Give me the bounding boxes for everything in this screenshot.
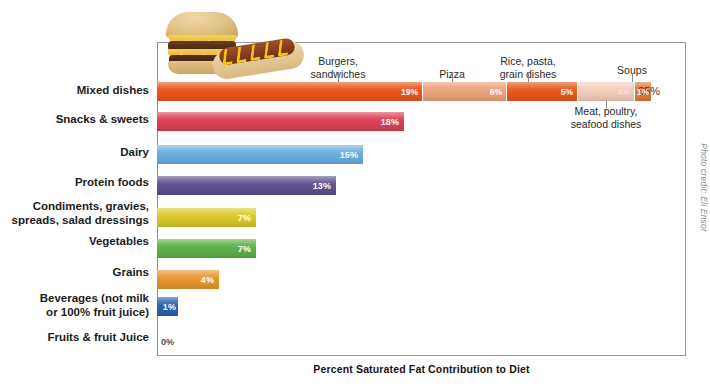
category-label-protein-foods: Protein foods [0, 176, 149, 190]
leader-line-meat-poultry [606, 101, 607, 108]
bar-value-snacks-sweets: 18% [381, 117, 399, 127]
category-label-condiments: Condiments, gravies, spreads, salad dres… [0, 200, 149, 227]
bar-fill [157, 176, 336, 195]
bar-fill [157, 145, 363, 164]
bar-value-vegetables: 7% [238, 244, 251, 254]
category-label-fruits: Fruits & fruit Juice [0, 331, 149, 345]
leader-line-burgers [338, 72, 339, 82]
x-axis-title: Percent Saturated Fat Contribution to Di… [157, 363, 686, 375]
category-label-grains: Grains [0, 266, 149, 280]
bar-segment-burgers-sandwiches: 19% [157, 82, 422, 101]
category-label-mixed-dishes: Mixed dishes [0, 84, 149, 98]
segment-value-pizza: 6% [490, 87, 502, 97]
bar-protein-foods: 13% [157, 176, 336, 195]
segment-value-rice-pasta: 5% [561, 87, 573, 97]
bar-beverages: 1% [157, 297, 178, 316]
segment-value-soups: 1% [637, 87, 649, 97]
category-label-dairy: Dairy [0, 146, 149, 160]
bar-value-beverages: 1% [163, 302, 176, 312]
leader-line-pizza [452, 72, 453, 82]
bar-segment-pizza: 6% [423, 82, 506, 101]
leader-line-soups [632, 73, 633, 82]
bar-segment-rice-pasta-grain: 5% [507, 82, 577, 101]
segment-fill [157, 82, 422, 101]
bar-fruits: 0% [157, 332, 183, 351]
segment-value-burgers: 19% [401, 87, 418, 97]
bar-condiments: 7% [157, 208, 256, 227]
bar-vegetables: 7% [157, 239, 256, 258]
segment-value-meat-poultry: 4% [618, 87, 630, 97]
photo-credit-text: Photo credit: Eli Ensor [699, 143, 709, 232]
bar-value-grains: 4% [201, 275, 214, 285]
bar-dairy: 15% [157, 145, 363, 164]
burger-top-bun [166, 12, 238, 38]
bar-value-fruits: 0% [161, 337, 174, 347]
leader-line-rice-pasta [528, 72, 529, 82]
bar-segment-meat-poultry-seafood: 4% [578, 82, 634, 101]
bar-value-protein-foods: 13% [313, 181, 331, 191]
bar-snacks-sweets: 18% [157, 112, 404, 131]
cheeseburger-and-hot-dog-photo [160, 0, 310, 84]
bar-value-dairy: 15% [340, 150, 358, 160]
bar-value-condiments: 7% [238, 213, 251, 223]
category-label-beverages: Beverages (not milk or 100% fruit juice) [0, 292, 149, 319]
bar-fill [157, 112, 404, 131]
category-label-vegetables: Vegetables [0, 235, 149, 249]
bar-mixed-dishes-stacked: 19% 6% 5% 4% 1% [157, 82, 636, 101]
category-label-snacks-sweets: Snacks & sweets [0, 113, 149, 127]
callout-meat-poultry-seafood: Meat, poultry, seafood dishes [538, 105, 674, 130]
bar-grains: 4% [157, 270, 219, 289]
